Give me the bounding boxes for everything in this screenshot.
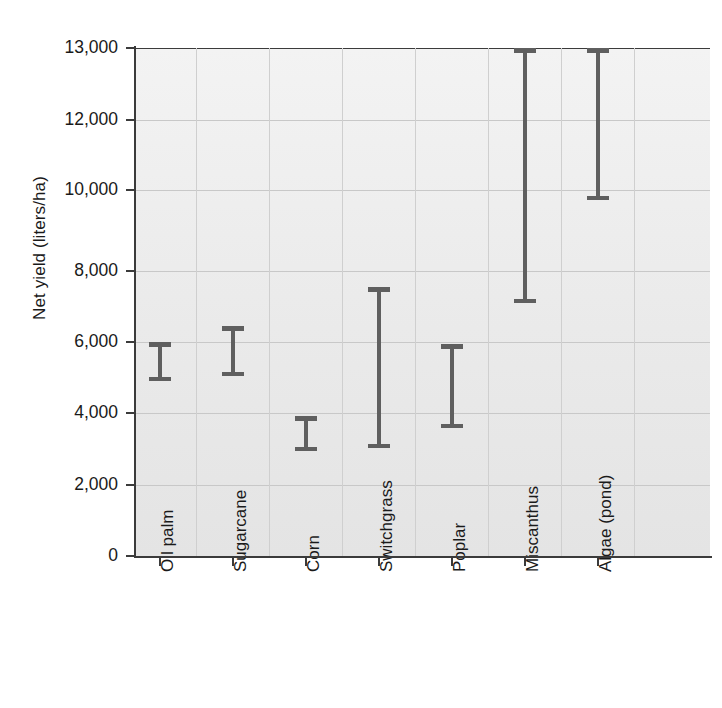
range-bar-cap-bottom [587,196,609,201]
y-tick-label: 13,000 [0,37,118,58]
x-tick-label: Oil palm [158,510,178,572]
y-tick-label: 0 [0,545,118,566]
gridline-vertical [561,48,562,556]
gridline-vertical [196,48,197,556]
x-axis-line [134,556,712,558]
y-tick-label: 8,000 [0,260,118,281]
range-bar-cap-bottom [222,372,244,377]
range-bar-cap-bottom [295,447,317,452]
x-tick-label: Switchgrass [377,480,397,572]
y-tick-label: 6,000 [0,331,118,352]
gridline-horizontal [135,413,710,414]
x-tick-label: Corn [304,535,324,572]
gridline-vertical [415,48,416,556]
plot-area [135,48,710,556]
range-bar-cap-top [222,326,244,331]
range-bar-stem [450,344,455,428]
range-bar-cap-top [295,416,317,421]
range-bar-stem [596,48,601,200]
gridline-vertical [488,48,489,556]
x-tick-label: Sugarcane [231,490,251,572]
x-tick-label: Miscanthus [523,486,543,572]
y-axis-line [134,46,136,558]
range-bar-stem [158,342,163,381]
y-tick-label: 2,000 [0,474,118,495]
gridline-vertical [634,48,635,556]
range-bar-cap-bottom [441,424,463,429]
y-tick-label: 10,000 [0,179,118,200]
range-bar-cap-top [587,48,609,53]
range-bar-cap-bottom [514,299,536,304]
range-bar-cap-bottom [368,444,390,449]
range-bar-cap-top [441,344,463,349]
chart-figure: Net yield (liters/ha) 13,00012,00010,000… [0,0,722,708]
range-bar-cap-top [368,287,390,292]
gridline-vertical [342,48,343,556]
gridline-horizontal [135,120,710,121]
range-bar-cap-bottom [149,377,171,382]
range-bar-stem [523,48,528,303]
range-bar-stem [231,326,236,376]
range-bar-cap-top [149,342,171,347]
gridline-horizontal [135,485,710,486]
y-tick-label: 12,000 [0,109,118,130]
gridline-horizontal [135,342,710,343]
range-bar-stem [377,287,382,448]
gridline-vertical [269,48,270,556]
x-tick-label: Poplar [450,523,470,572]
range-bar-cap-top [514,48,536,53]
y-tick-label: 4,000 [0,402,118,423]
gridline-horizontal [135,190,710,191]
gridline-horizontal [135,271,710,272]
